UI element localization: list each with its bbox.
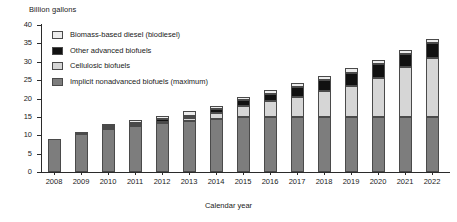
bar-segment <box>237 100 250 106</box>
bar-segment <box>426 43 439 58</box>
stacked-bar-chart: Billion gallons 0510152025303540 2008200… <box>0 0 457 222</box>
bar-segment <box>399 50 412 54</box>
bar-segment <box>318 76 331 80</box>
bar-2012 <box>156 25 169 172</box>
bar-segment <box>210 113 223 119</box>
bar-segment <box>183 118 196 122</box>
bar-segment <box>291 83 304 87</box>
x-axis-line <box>41 172 450 173</box>
x-tick-label: 2012 <box>148 178 176 186</box>
x-tick-label: 2017 <box>283 178 311 186</box>
legend-swatch-icon <box>52 78 63 86</box>
y-tick-label: 20 <box>18 95 32 103</box>
bar-2018 <box>318 25 331 172</box>
y-tick-label: 15 <box>18 113 32 121</box>
legend-label: Cellulosic biofuels <box>70 61 130 70</box>
y-tick-label-wrap: 15 <box>18 113 34 121</box>
y-tick-label: 35 <box>18 39 32 47</box>
bar-2015 <box>237 25 250 172</box>
bar-segment <box>129 120 142 122</box>
x-tick-mark <box>54 172 55 175</box>
bar-segment <box>129 126 142 172</box>
bar-segment <box>291 97 304 117</box>
bar-2019 <box>345 25 358 172</box>
x-tick-label: 2016 <box>256 178 284 186</box>
y-tick-mark <box>37 80 41 81</box>
bar-segment <box>399 117 412 172</box>
legend-label: Implicit nonadvanced biofuels (maximum) <box>70 77 208 86</box>
bar-segment <box>102 128 115 172</box>
y-tick-mark <box>37 135 41 136</box>
bar-segment <box>48 139 61 172</box>
bar-2020 <box>372 25 385 172</box>
bar-segment <box>156 123 169 172</box>
bar-segment <box>183 121 196 172</box>
bar-segment <box>264 94 277 101</box>
bar-segment <box>291 87 304 96</box>
y-tick-label-wrap: 25 <box>18 76 34 84</box>
bar-segment <box>156 122 169 124</box>
bar-segment <box>264 90 277 94</box>
x-tick-label: 2022 <box>418 178 446 186</box>
bar-segment <box>264 101 277 117</box>
x-tick-mark <box>405 172 406 175</box>
bar-segment <box>102 124 115 126</box>
y-tick-mark <box>37 62 41 63</box>
x-tick-label: 2018 <box>310 178 338 186</box>
bar-segment <box>237 117 250 172</box>
bar-segment <box>345 117 358 172</box>
x-tick-mark <box>297 172 298 175</box>
y-tick-label-wrap: 40 <box>18 21 34 29</box>
x-tick-label: 2009 <box>67 178 95 186</box>
y-tick-label: 30 <box>18 58 32 66</box>
bar-segment <box>426 117 439 172</box>
bar-segment <box>345 86 358 117</box>
y-tick-label-wrap: 35 <box>18 39 34 47</box>
bar-segment <box>426 39 439 43</box>
legend-swatch-icon <box>52 47 63 55</box>
y-axis-title: Billion gallons <box>29 5 76 14</box>
bar-segment <box>183 116 196 118</box>
x-tick-label: 2021 <box>391 178 419 186</box>
bar-segment <box>399 54 412 67</box>
y-tick-label: 25 <box>18 76 32 84</box>
x-tick-label: 2008 <box>40 178 68 186</box>
x-tick-mark <box>378 172 379 175</box>
y-tick-mark <box>37 172 41 173</box>
x-tick-mark <box>81 172 82 175</box>
bar-segment <box>75 133 88 172</box>
y-axis-line <box>41 24 42 173</box>
legend-label: Biomass-based diesel (biodiesel) <box>70 30 180 39</box>
bar-segment <box>210 119 223 172</box>
y-tick-mark <box>37 25 41 26</box>
bar-2016 <box>264 25 277 172</box>
bar-segment <box>318 91 331 117</box>
legend-swatch-icon <box>52 31 63 39</box>
bar-segment <box>237 97 250 101</box>
bar-segment <box>318 80 331 91</box>
x-tick-label: 2011 <box>121 178 149 186</box>
bar-2022 <box>426 25 439 172</box>
bar-segment <box>264 117 277 172</box>
bar-segment <box>102 128 115 130</box>
y-tick-mark <box>37 99 41 100</box>
bar-segment <box>129 123 142 125</box>
legend-label: Other advanced biofuels <box>70 46 151 55</box>
x-tick-label: 2010 <box>94 178 122 186</box>
y-tick-label-wrap: 0 <box>18 168 34 176</box>
bar-2017 <box>291 25 304 172</box>
x-tick-mark <box>189 172 190 175</box>
bar-segment <box>183 111 196 115</box>
bar-2021 <box>399 25 412 172</box>
x-tick-label: 2015 <box>229 178 257 186</box>
y-tick-label: 40 <box>18 21 32 29</box>
bar-segment <box>129 125 142 127</box>
x-tick-mark <box>162 172 163 175</box>
bar-2013 <box>183 25 196 172</box>
y-tick-label: 0 <box>18 168 32 176</box>
y-tick-mark <box>37 43 41 44</box>
x-tick-mark <box>270 172 271 175</box>
y-tick-label-wrap: 30 <box>18 58 34 66</box>
bar-2014 <box>210 25 223 172</box>
x-tick-label: 2019 <box>337 178 365 186</box>
